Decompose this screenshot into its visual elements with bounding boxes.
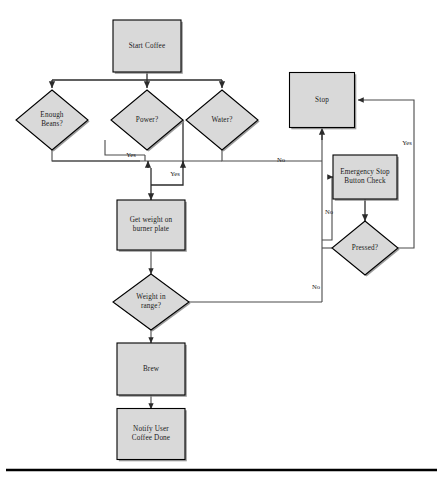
node-weightrange[interactable]: Weight inrange? xyxy=(113,274,191,332)
edge-water-no xyxy=(222,150,322,161)
node-label: Coffee Done xyxy=(132,434,170,442)
node-label: Stop xyxy=(315,96,329,104)
flowchart-canvas: Start CoffeeEnoughBeans?Power?Water?Get … xyxy=(0,0,443,481)
node-label: Emergency Stop xyxy=(340,168,390,176)
node-brew[interactable]: Brew xyxy=(117,343,187,397)
edge-label-water-no: No xyxy=(277,156,286,163)
node-beans[interactable]: EnoughBeans? xyxy=(16,90,90,152)
node-stop[interactable]: Stop xyxy=(290,73,357,130)
node-label: Pressed? xyxy=(352,244,378,252)
node-label: burner plate xyxy=(133,225,169,233)
node-label: Beans? xyxy=(41,120,63,128)
edge-label-power-yes: Yes xyxy=(170,170,180,177)
node-label: Power? xyxy=(136,116,158,124)
node-getweight[interactable]: Get weight onburner plate xyxy=(117,200,187,252)
edge-label-beans-yes: Yes xyxy=(126,151,136,158)
node-label: Enough xyxy=(40,111,64,119)
node-label: Water? xyxy=(211,116,232,124)
node-estop[interactable]: Emergency StopButton Check xyxy=(333,155,399,201)
edge-label-estop-no: No xyxy=(325,208,334,215)
node-water[interactable]: Water? xyxy=(186,90,260,152)
node-label: Start Coffee xyxy=(129,42,166,50)
node-label: range? xyxy=(141,302,161,310)
flowchart-svg: Start CoffeeEnoughBeans?Power?Water?Get … xyxy=(0,0,443,481)
node-label: Weight in xyxy=(136,293,166,301)
node-start[interactable]: Start Coffee xyxy=(113,20,183,74)
node-notify[interactable]: Notify UserCoffee Done xyxy=(117,409,187,462)
nodes-layer: Start CoffeeEnoughBeans?Power?Water?Get … xyxy=(16,20,400,461)
edge-label-weight-no: No xyxy=(312,283,321,290)
node-label: Notify User xyxy=(133,425,169,433)
node-label: Get weight on xyxy=(130,216,173,224)
node-label: Brew xyxy=(143,365,160,373)
node-power[interactable]: Power? xyxy=(111,90,185,152)
edge-label-pressed-yes: Yes xyxy=(402,139,412,146)
node-pressed[interactable]: Pressed? xyxy=(332,221,400,277)
node-label: Button Check xyxy=(344,177,386,185)
